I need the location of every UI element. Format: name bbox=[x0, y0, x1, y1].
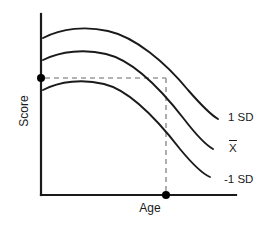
curve-label-lower-neg1sd: -1 SD bbox=[224, 173, 253, 185]
age-intercept-marker bbox=[162, 191, 170, 199]
growth-curve-figure: Score Age 1 SD X -1 SD bbox=[0, 0, 272, 228]
score-intercept-marker bbox=[37, 74, 45, 82]
curve-middle-mean bbox=[43, 51, 213, 149]
mean-symbol-with-overbar: X bbox=[229, 140, 237, 154]
curve-label-upper-1sd: 1 SD bbox=[228, 111, 254, 123]
x-axis-label: Age bbox=[120, 201, 180, 215]
curve-lower-neg1sd bbox=[43, 81, 210, 177]
curve-label-middle-mean: X bbox=[229, 140, 237, 154]
curve-upper-1sd bbox=[43, 28, 218, 119]
y-axis-label: Score bbox=[17, 81, 31, 141]
